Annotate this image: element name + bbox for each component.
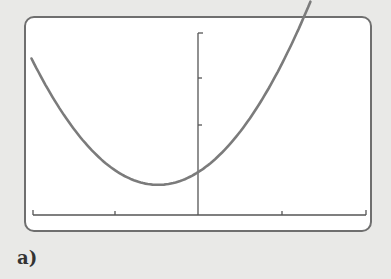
panel-label: a) — [17, 247, 37, 268]
x-axis-ticks — [33, 210, 366, 215]
parabola-curve — [32, 2, 311, 185]
y-axis-ticks — [198, 33, 203, 125]
parabola-chart — [0, 0, 391, 279]
